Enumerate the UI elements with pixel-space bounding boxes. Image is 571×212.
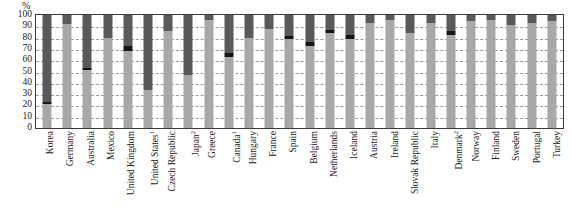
bar-slot: [239, 15, 259, 128]
x-axis-label: Austria: [370, 131, 380, 159]
stacked-bar[interactable]: [386, 15, 395, 128]
stacked-bar[interactable]: [285, 15, 294, 128]
x-label-slot: Czech Republic: [158, 131, 178, 212]
bar-slot: [360, 15, 380, 128]
bar-slot: [178, 15, 198, 128]
x-label-slot: United Kingdom: [117, 131, 137, 212]
stacked-bar[interactable]: [265, 15, 274, 128]
stacked-bar[interactable]: [144, 15, 153, 128]
bar-segment-low: [63, 24, 72, 128]
bar-segment-low: [184, 75, 193, 128]
x-axis-label: Norway: [472, 131, 482, 162]
y-axis-tick: 40: [23, 78, 33, 88]
y-axis-tick: 100: [18, 10, 32, 20]
bar-slot: [199, 15, 219, 128]
x-label-slot: France: [259, 131, 279, 212]
bar-segment-high: [224, 15, 233, 53]
x-label-slot: Iceland: [340, 131, 360, 212]
bar-slot: [400, 15, 420, 128]
stacked-bar[interactable]: [103, 15, 112, 128]
bar-segment-high: [184, 15, 193, 75]
bar-segment-high: [63, 15, 72, 24]
x-label-slot: Austria: [360, 131, 380, 212]
stacked-bar[interactable]: [345, 15, 354, 128]
bar-segment-low: [305, 46, 314, 128]
y-axis-tick: 10: [23, 112, 33, 122]
y-axis-tick: 0: [27, 123, 32, 133]
bar-segment-low: [345, 39, 354, 128]
stacked-bar[interactable]: [63, 15, 72, 128]
x-axis-label: Sweden: [512, 131, 522, 161]
bar-segment-high: [345, 15, 354, 35]
stacked-bar[interactable]: [507, 15, 516, 128]
bar-slot: [57, 15, 77, 128]
stacked-bar[interactable]: [325, 15, 334, 128]
bar-segment-low: [386, 20, 395, 128]
stacked-bar[interactable]: [547, 15, 556, 128]
bar-segment-low: [507, 25, 516, 128]
bar-slot: [501, 15, 521, 128]
x-label-slot: Sweden: [502, 131, 522, 212]
plot-area: [35, 14, 564, 129]
stacked-bar[interactable]: [184, 15, 193, 128]
stacked-bar[interactable]: [224, 15, 233, 128]
stacked-bar[interactable]: [446, 15, 455, 128]
bar-segment-high: [507, 15, 516, 25]
bar-segment-high: [285, 15, 294, 36]
x-axis-label: Finland: [492, 131, 502, 160]
x-label-slot: Greece: [198, 131, 218, 212]
x-axis-label: Australia: [87, 131, 97, 166]
x-label-slot: Italy: [421, 131, 441, 212]
bar-segment-low: [244, 38, 253, 128]
x-label-slot: Norway: [462, 131, 482, 212]
stacked-bar[interactable]: [487, 15, 496, 128]
bar-segment-low: [83, 70, 92, 128]
stacked-bar[interactable]: [164, 15, 173, 128]
stacked-bar[interactable]: [305, 15, 314, 128]
y-axis-tick: 90: [23, 22, 33, 32]
stacked-bar[interactable]: [467, 15, 476, 128]
bar-segment-low: [467, 21, 476, 128]
stacked-bar[interactable]: [204, 15, 213, 128]
y-axis-tick: 50: [23, 67, 33, 77]
stacked-bar[interactable]: [527, 15, 536, 128]
x-label-slot: Japan2: [178, 131, 198, 212]
bar-slot: [481, 15, 501, 128]
bar-segment-low: [446, 35, 455, 128]
bar-segment-low: [123, 51, 132, 128]
bar-segment-low: [547, 21, 556, 128]
footnote-marker: 1: [148, 131, 155, 134]
bar-segment-low: [487, 20, 496, 128]
x-axis-labels: KoreaGermanyAustraliaMexicoUnited Kingdo…: [35, 131, 564, 212]
bar-segment-high: [265, 15, 274, 29]
x-label-slot: Australia: [77, 131, 97, 212]
x-label-slot: Turkey: [543, 131, 563, 212]
bar-segment-high: [103, 15, 112, 38]
stacked-bar[interactable]: [43, 15, 52, 128]
stacked-bar[interactable]: [426, 15, 435, 128]
x-axis-label: Korea: [46, 131, 56, 154]
x-axis-label: Greece: [208, 131, 218, 158]
x-axis-label: Portugal: [533, 131, 543, 163]
x-label-slot: Slovak Republic: [401, 131, 421, 212]
stacked-bar[interactable]: [83, 15, 92, 128]
bar-segment-low: [164, 31, 173, 128]
x-label-slot: Spain: [279, 131, 299, 212]
x-axis-label: United Kingdom: [127, 131, 137, 195]
stacked-bar[interactable]: [366, 15, 375, 128]
bar-segment-high: [244, 15, 253, 38]
stacked-bar[interactable]: [406, 15, 415, 128]
x-axis-label: Turkey: [553, 131, 563, 158]
stacked-bar[interactable]: [244, 15, 253, 128]
x-axis-label: Spain: [289, 131, 299, 153]
y-axis-tick: 20: [23, 101, 33, 111]
bar-slot: [77, 15, 97, 128]
bar-slot: [340, 15, 360, 128]
bar-slot: [98, 15, 118, 128]
x-axis-label: Iceland: [350, 131, 360, 159]
bar-segment-low: [103, 38, 112, 128]
stacked-bar[interactable]: [123, 15, 132, 128]
x-label-slot: Portugal: [522, 131, 542, 212]
y-axis-tick: 80: [23, 33, 33, 43]
x-axis-label: Belgium: [310, 131, 320, 164]
